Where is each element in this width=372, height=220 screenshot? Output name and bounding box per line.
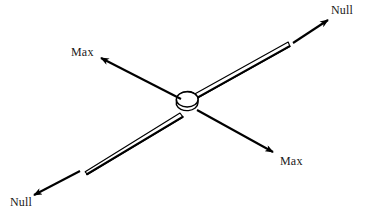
max-label-bottom-right: Max — [280, 155, 303, 167]
null-label-bottom-left: Null — [10, 196, 32, 208]
max-label-top-left: Max — [71, 46, 94, 58]
antenna-diagram-canvas — [0, 0, 372, 220]
null-label-top-right: Null — [331, 4, 353, 16]
central-hub — [176, 92, 198, 111]
